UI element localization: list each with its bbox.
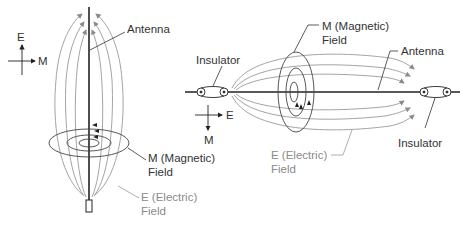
label-antenna: Antenna [127,23,170,35]
label-insulator-left: Insulator [196,54,240,66]
horizontal-axes-indicator: `‘ [195,105,222,130]
label-horizontal-electric: E (Electric) [271,149,327,161]
label-horizontal-antenna: Antenna [401,45,444,57]
axis-label-e: E [17,31,25,43]
label-magnetic-field-2: Field [148,166,173,178]
magnetic-arrows [92,123,99,139]
magnetic-leader-line [128,148,146,160]
insulator-right [420,87,451,98]
horizontal-electric-leader [331,130,352,155]
insulator-left [197,87,228,98]
label-electric-field-2: Field [141,205,166,217]
axis-label-e-horizontal: E [226,109,234,121]
label-magnetic-field: M (Magnetic) [148,152,215,164]
insulator-right-leader [425,98,435,128]
antenna-field-diagram: E M Antenna M (Magnetic) Field E (Electr… [0,0,465,234]
horizontal-antenna-panel: `‘ E M Insulator M (Magnetic) Field Ante… [185,20,460,175]
vertical-antenna-panel: E M Antenna M (Magnetic) Field E (Electr… [8,7,215,217]
label-electric-field: E (Electric) [141,191,197,203]
insulator-left-leader [213,66,222,86]
label-insulator-right: Insulator [398,137,442,149]
axis-label-m-horizontal: M [204,134,214,146]
antenna-feed-box [86,200,92,212]
horizontal-magnetic-leader [294,25,319,52]
horizontal-magnetic-arrows [295,100,311,109]
axis-label-m: M [38,55,48,67]
label-horizontal-magnetic-2: Field [322,34,347,46]
vertical-axes-indicator [8,45,35,75]
label-horizontal-magnetic: M (Magnetic) [322,20,389,32]
electric-leader-line [118,186,139,198]
label-horizontal-electric-2: Field [271,163,296,175]
